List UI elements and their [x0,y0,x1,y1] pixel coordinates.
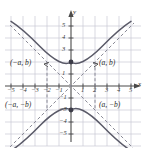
y-tick-1: 1 [62,69,65,76]
graph-canvas [0,0,147,148]
x-tick--3: −3 [31,86,39,93]
x-tick--1: −1 [55,86,63,93]
y-tick--1: −1 [59,93,67,100]
x-tick--4: −4 [19,86,27,93]
x-tick-4: 4 [117,86,120,93]
y-tick--4: −4 [59,117,67,124]
y-axis-label: y [73,8,76,16]
x-tick-1: 1 [81,86,84,93]
hyperbola-figure: −5 −4 −3 −2 −1 1 2 3 4 5 5 4 3 1 −1 −3 −… [0,0,147,148]
point-label-top-left: (−a, b) [10,58,31,67]
x-tick-5: 5 [129,86,132,93]
vertex-lower [69,108,74,113]
y-tick-4: 4 [62,33,65,40]
x-axis-label: x [138,80,141,88]
point-label-top-right: (a, b) [99,58,115,67]
y-tick-5: 5 [62,21,65,28]
y-tick-3: 3 [62,45,65,52]
x-tick--5: −5 [7,86,15,93]
point-label-bottom-right: (a, −b) [99,100,120,109]
x-tick--2: −2 [43,86,51,93]
point-label-bottom-left: (−a, −b) [5,100,31,109]
y-tick--3: −3 [59,105,67,112]
vertex-upper [69,60,74,65]
x-tick-3: 3 [105,86,108,93]
y-tick--5: −5 [59,129,67,136]
x-tick-2: 2 [93,86,96,93]
